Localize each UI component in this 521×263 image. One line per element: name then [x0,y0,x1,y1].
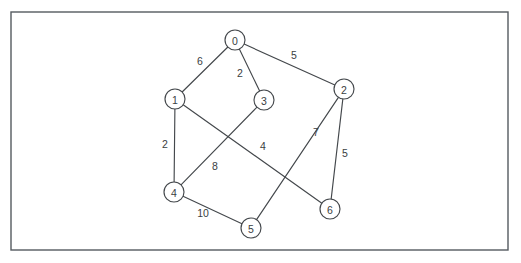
node-label-4: 4 [171,187,177,199]
graph-node-6[interactable]: 6 [320,199,340,219]
edge-weight-0-2: 5 [291,49,297,61]
node-label-5: 5 [248,223,254,235]
graph-edge-4-5 [183,196,242,224]
graph-edge-2-6 [331,99,343,199]
graph-node-1[interactable]: 1 [165,89,185,109]
edge-weight-1-6: 4 [260,140,266,152]
edge-weight-0-3: 2 [237,67,243,79]
node-label-0: 0 [232,35,238,47]
graph-canvas: 6252481075 0123456 [0,0,521,263]
nodes-layer: 0123456 [164,30,354,238]
graph-edge-4-3 [181,107,257,185]
graph-node-4[interactable]: 4 [164,182,184,202]
edge-weight-2-5: 7 [313,126,319,138]
graph-edge-0-2 [244,44,335,85]
node-label-1: 1 [172,94,178,106]
graph-node-2[interactable]: 2 [334,79,354,99]
node-label-2: 2 [341,84,347,96]
edge-weight-4-3: 8 [212,160,218,172]
edge-weight-4-5: 10 [197,207,209,219]
graph-figure: 6252481075 0123456 [0,0,521,263]
edge-weight-labels-layer: 6252481075 [162,49,348,219]
edge-weight-2-6: 5 [342,147,348,159]
graph-edge-0-1 [182,47,228,92]
graph-node-3[interactable]: 3 [254,90,274,110]
graph-edge-1-4 [174,109,175,182]
graph-node-0[interactable]: 0 [225,30,245,50]
node-label-3: 3 [261,95,267,107]
node-label-6: 6 [327,204,333,216]
graph-node-5[interactable]: 5 [241,218,261,238]
edge-weight-0-1: 6 [197,55,203,67]
edge-weight-1-4: 2 [162,138,168,150]
